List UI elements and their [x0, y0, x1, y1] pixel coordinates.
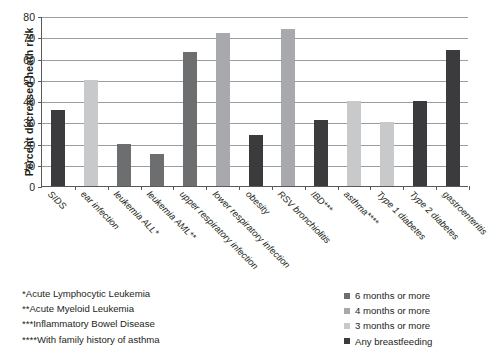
- bar: [183, 52, 197, 186]
- bar: [216, 33, 230, 186]
- legend-swatch-icon: [344, 293, 350, 299]
- y-axis-tick-label: 30: [23, 117, 35, 129]
- footnote: *Acute Lymphocytic Leukemia: [22, 286, 160, 301]
- footnote: ***Inflammatory Bowel Disease: [22, 316, 160, 331]
- footnote: ****With family history of asthma: [22, 332, 160, 347]
- legend-swatch-icon: [344, 308, 350, 314]
- legend-label: 3 months or more: [355, 318, 430, 333]
- legend-item: 4 months or more: [344, 303, 432, 318]
- y-axis-tick-label: 0: [29, 181, 35, 193]
- bar: [51, 110, 65, 187]
- legend-item: 3 months or more: [344, 318, 432, 333]
- bar: [281, 29, 295, 186]
- bar: [249, 135, 263, 186]
- x-axis-label: obesity: [243, 189, 271, 217]
- footnote: **Acute Myeloid Leukemia: [22, 301, 160, 316]
- chart-legend: 6 months or more4 months or more3 months…: [344, 288, 432, 349]
- legend-item: Any breastfeeding: [344, 334, 432, 349]
- legend-swatch-icon: [344, 338, 350, 344]
- x-axis-tick: [469, 186, 470, 190]
- y-axis-tick-label: 80: [23, 11, 35, 23]
- bar: [413, 101, 427, 186]
- x-axis-label: SIDS: [46, 189, 68, 211]
- legend-label: 4 months or more: [355, 303, 430, 318]
- y-axis-tick-label: 20: [23, 139, 35, 151]
- x-axis-labels: SIDSear infectionleukemia ALL*leukemia A…: [41, 189, 468, 284]
- legend-item: 6 months or more: [344, 288, 432, 303]
- bars-layer: [42, 17, 468, 186]
- legend-label: Any breastfeeding: [355, 334, 432, 349]
- y-axis-tick-label: 10: [23, 160, 35, 172]
- plot-area: 01020304050607080: [41, 17, 468, 187]
- bar: [380, 122, 394, 186]
- bar: [150, 154, 164, 186]
- y-axis-tick-label: 60: [23, 54, 35, 66]
- bar: [347, 101, 361, 186]
- footnotes-block: *Acute Lymphocytic Leukemia**Acute Myelo…: [22, 286, 160, 347]
- bar: [314, 120, 328, 186]
- bar: [446, 50, 460, 186]
- bar: [117, 144, 131, 187]
- y-axis-tick-label: 70: [23, 32, 35, 44]
- y-axis-tick: [38, 187, 42, 188]
- y-axis-tick-label: 50: [23, 75, 35, 87]
- legend-label: 6 months or more: [355, 288, 430, 303]
- legend-swatch-icon: [344, 323, 350, 329]
- y-axis-tick-label: 40: [23, 96, 35, 108]
- bar: [84, 80, 98, 186]
- x-axis-label: IBD***: [309, 189, 334, 214]
